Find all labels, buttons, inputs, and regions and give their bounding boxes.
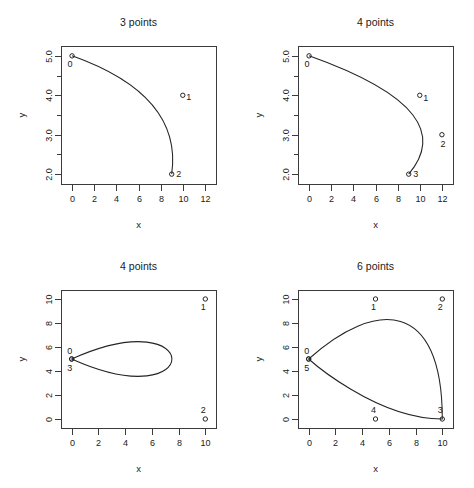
- control-point-label: 1: [423, 93, 428, 103]
- control-point-label: 2: [438, 302, 443, 312]
- x-tick-label: 2: [92, 194, 97, 204]
- y-tick-label: 2: [281, 393, 291, 398]
- control-point-marker: [440, 297, 444, 301]
- y-tick-label: 4.0: [281, 89, 291, 102]
- bezier-figure: 3 points024681012x2.03.04.05.0y012 4 poi…: [0, 0, 474, 488]
- y-tick-label: 10: [44, 294, 54, 304]
- plot-frame: [62, 291, 217, 429]
- x-axis: 024681012: [307, 185, 448, 205]
- x-axis-label: x: [373, 463, 378, 474]
- x-axis-label: x: [136, 219, 141, 230]
- control-point-label: 0: [67, 346, 72, 356]
- y-tick-label: 2.0: [44, 168, 54, 181]
- control-point-label: 5: [304, 363, 309, 373]
- y-tick-label: 8: [281, 321, 291, 326]
- y-tick-label: 10: [281, 294, 291, 304]
- y-tick-label: 6: [281, 345, 291, 350]
- control-point-label: 2: [440, 139, 445, 149]
- x-tick-label: 0: [70, 438, 75, 448]
- y-tick-label: 8: [44, 321, 54, 326]
- y-tick-label: 4.0: [44, 89, 54, 102]
- x-tick-label: 4: [351, 194, 356, 204]
- control-point-label: 3: [413, 169, 418, 179]
- control-point-label: 1: [201, 302, 206, 312]
- panel-title: 3 points: [120, 16, 157, 28]
- plot-3: 4 points0246810x0246810y0123: [0, 244, 237, 488]
- x-tick-label: 8: [396, 194, 401, 204]
- x-tick-label: 6: [374, 194, 379, 204]
- y-axis: 0246810: [281, 294, 298, 422]
- bezier-curve: [72, 342, 172, 377]
- y-axis: 2.03.04.05.0: [44, 50, 61, 181]
- bezier-curve: [72, 56, 173, 174]
- control-point-marker: [440, 133, 444, 137]
- y-tick-label: 3.0: [281, 129, 291, 142]
- y-tick-label: 3.0: [44, 129, 54, 142]
- control-point-label: 0: [68, 59, 73, 69]
- panel-bottom-left: 4 points0246810x0246810y0123: [0, 244, 237, 488]
- control-point-label: 1: [371, 302, 376, 312]
- bezier-curve: [309, 56, 423, 174]
- control-point-label: 0: [305, 59, 310, 69]
- control-point-label: 2: [176, 169, 181, 179]
- panel-title: 4 points: [357, 16, 394, 28]
- y-axis-label: y: [16, 112, 27, 117]
- x-tick-label: 6: [150, 438, 155, 448]
- plot-4: 6 points0246810x0246810y012345: [237, 244, 474, 488]
- x-tick-label: 0: [307, 438, 312, 448]
- plot-frame: [299, 47, 454, 185]
- control-point-marker: [181, 93, 185, 97]
- y-tick-label: 2.0: [281, 168, 291, 181]
- control-point-marker: [373, 297, 377, 301]
- x-tick-label: 8: [177, 438, 182, 448]
- y-axis: 0246810: [44, 294, 61, 422]
- y-tick-label: 0: [281, 417, 291, 422]
- x-tick-label: 4: [114, 194, 119, 204]
- control-point-label: 2: [201, 405, 206, 415]
- x-tick-label: 8: [414, 438, 419, 448]
- control-point-marker: [418, 93, 422, 97]
- y-tick-label: 4: [281, 369, 291, 374]
- x-axis: 0246810: [70, 429, 211, 449]
- control-point-label: 3: [67, 363, 72, 373]
- x-tick-label: 8: [159, 194, 164, 204]
- y-tick-label: 2: [44, 393, 54, 398]
- plot-2: 4 points024681012x2.03.04.05.0y0123: [237, 0, 474, 244]
- y-axis-label: y: [253, 356, 264, 361]
- y-axis-label: y: [16, 356, 27, 361]
- x-tick-label: 10: [415, 194, 425, 204]
- y-tick-label: 5.0: [44, 50, 54, 63]
- y-axis: 2.03.04.05.0: [281, 50, 298, 181]
- x-tick-label: 6: [137, 194, 142, 204]
- y-tick-label: 6: [44, 345, 54, 350]
- y-tick-label: 4: [44, 369, 54, 374]
- control-point-label: 0: [304, 346, 309, 356]
- control-point-label: 4: [371, 405, 376, 415]
- x-tick-label: 2: [96, 438, 101, 448]
- x-tick-label: 6: [387, 438, 392, 448]
- control-point-marker: [203, 417, 207, 421]
- y-tick-label: 0: [44, 417, 54, 422]
- plot-1: 3 points024681012x2.03.04.05.0y012: [0, 0, 237, 244]
- x-tick-label: 10: [437, 438, 447, 448]
- control-point-label: 3: [438, 405, 443, 415]
- x-tick-label: 2: [333, 438, 338, 448]
- panel-top-left: 3 points024681012x2.03.04.05.0y012: [0, 0, 237, 244]
- x-tick-label: 4: [360, 438, 365, 448]
- y-axis-label: y: [253, 112, 264, 117]
- x-axis-label: x: [373, 219, 378, 230]
- x-axis: 024681012: [70, 185, 211, 205]
- x-tick-label: 4: [123, 438, 128, 448]
- control-points: 0123: [305, 54, 446, 179]
- panel-top-right: 4 points024681012x2.03.04.05.0y0123: [237, 0, 474, 244]
- control-points: 012345: [304, 297, 444, 421]
- control-point-marker: [203, 297, 207, 301]
- control-point-label: 1: [186, 92, 191, 102]
- x-axis-label: x: [136, 463, 141, 474]
- panel-bottom-right: 6 points0246810x0246810y012345: [237, 244, 474, 488]
- y-tick-label: 5.0: [281, 50, 291, 63]
- control-point-marker: [373, 417, 377, 421]
- x-tick-label: 10: [178, 194, 188, 204]
- x-tick-label: 12: [437, 194, 447, 204]
- x-tick-label: 2: [329, 194, 334, 204]
